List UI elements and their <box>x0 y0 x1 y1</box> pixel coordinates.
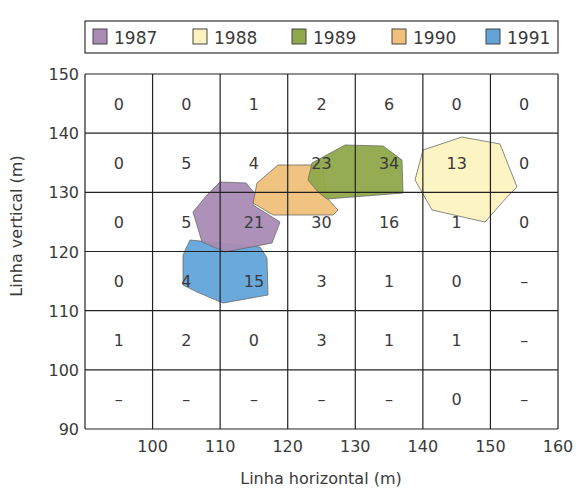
cell-value: 3 <box>316 272 326 291</box>
legend-label: 1988 <box>214 28 257 48</box>
legend-swatch <box>392 29 406 44</box>
cell-value: 1 <box>452 331 462 350</box>
cell-value: 15 <box>244 272 264 291</box>
legend-label: 1990 <box>413 28 456 48</box>
x-tick-label: 110 <box>205 437 236 456</box>
cell-value: 0 <box>114 213 124 232</box>
cell-value: 1 <box>384 331 394 350</box>
cell-value: 5 <box>181 213 191 232</box>
cell-value: – <box>520 331 528 350</box>
cell-value: – <box>520 272 528 291</box>
cell-value: 2 <box>181 331 191 350</box>
cell-value: 6 <box>384 95 394 114</box>
chart: 19871988198919901991 0012600054233413005… <box>0 0 579 492</box>
y-axis-ticks: 15014013012011010090 <box>48 65 79 439</box>
cell-value: 0 <box>114 272 124 291</box>
cell-value: 34 <box>379 154 399 173</box>
cell-value: 0 <box>519 213 529 232</box>
year-regions <box>183 137 517 303</box>
cell-value: 1 <box>114 331 124 350</box>
cell-value: 1 <box>249 95 259 114</box>
cell-value: 0 <box>181 95 191 114</box>
y-tick-label: 120 <box>48 243 79 262</box>
y-tick-label: 150 <box>48 65 79 84</box>
cell-value: 0 <box>452 272 462 291</box>
cell-value: 0 <box>519 154 529 173</box>
cell-value: 4 <box>181 272 191 291</box>
y-tick-label: 110 <box>48 302 79 321</box>
x-tick-label: 120 <box>272 437 303 456</box>
cell-value: 23 <box>311 154 331 173</box>
cell-value: 0 <box>452 390 462 409</box>
legend-swatch <box>292 29 306 44</box>
x-tick-label: 100 <box>137 437 168 456</box>
y-tick-label: 130 <box>48 183 79 202</box>
legend-label: 1991 <box>507 28 550 48</box>
legend-label: 1987 <box>114 28 157 48</box>
cell-value: 1 <box>384 272 394 291</box>
cell-value: 0 <box>114 154 124 173</box>
cell-value: – <box>250 390 258 409</box>
cell-value: 0 <box>452 95 462 114</box>
cell-value: 4 <box>249 154 259 173</box>
cell-value: 21 <box>244 213 264 232</box>
y-tick-label: 100 <box>48 361 79 380</box>
x-axis-ticks: 100110120130140150160 <box>137 437 573 456</box>
cell-value: 5 <box>181 154 191 173</box>
legend-swatch <box>486 29 500 44</box>
cell-value: 2 <box>316 95 326 114</box>
y-tick-label: 90 <box>59 420 79 439</box>
x-tick-label: 160 <box>543 437 574 456</box>
x-tick-label: 140 <box>408 437 439 456</box>
cell-value: – <box>115 390 123 409</box>
region-1988 <box>415 137 517 222</box>
y-axis-title: Linha vertical (m) <box>7 155 26 296</box>
y-tick-label: 140 <box>48 124 79 143</box>
cell-value: – <box>385 390 393 409</box>
cell-value: 1 <box>452 213 462 232</box>
legend-swatch <box>193 29 207 44</box>
cell-value: 0 <box>114 95 124 114</box>
grid <box>85 74 558 429</box>
x-tick-label: 130 <box>340 437 371 456</box>
cell-value: 3 <box>316 331 326 350</box>
legend-label: 1989 <box>313 28 356 48</box>
x-axis-title: Linha horizontal (m) <box>240 469 402 488</box>
legend: 19871988198919901991 <box>85 21 558 53</box>
cell-value: 0 <box>519 95 529 114</box>
x-tick-label: 150 <box>475 437 506 456</box>
cell-value: 13 <box>446 154 466 173</box>
cell-value: – <box>182 390 190 409</box>
cell-value: – <box>318 390 326 409</box>
legend-swatch <box>93 29 107 44</box>
cell-value: 30 <box>311 213 331 232</box>
cell-value: 16 <box>379 213 399 232</box>
cell-value: 0 <box>249 331 259 350</box>
cell-value: – <box>520 390 528 409</box>
